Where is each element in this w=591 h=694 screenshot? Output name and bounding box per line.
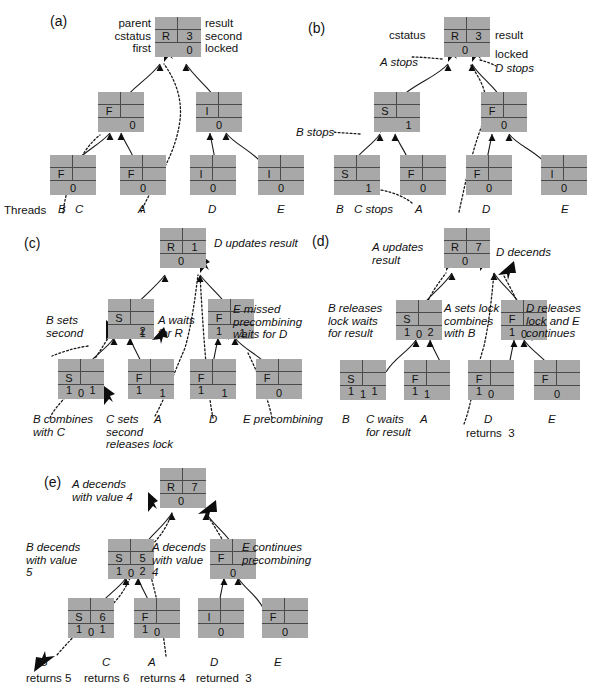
- annotation-a-waits-for-r: A waits for R: [158, 314, 195, 339]
- annotation-e-continues-precombining: E continues precombining: [242, 541, 311, 566]
- node-leaf-3: F 0: [534, 360, 580, 400]
- annotation-b-returns-5: returns 5: [26, 672, 71, 685]
- annotation-a-updates-result: A updates result: [372, 241, 423, 266]
- node-leaf-2: F 1 0: [468, 360, 514, 400]
- annotation-e-missed-precombining: E missed precombining waits for D: [233, 303, 302, 341]
- thread-label-a: A: [148, 656, 156, 669]
- annotation-d: D: [209, 413, 217, 426]
- node-leaf-1: F 0: [400, 155, 446, 195]
- thread-label-c: C: [75, 203, 83, 216]
- thread-label-e: E: [548, 413, 556, 426]
- panel-a: (a) R 3 0 F: [0, 0, 300, 228]
- node-leaf-3: F 0: [262, 598, 308, 638]
- node-cstatus: R: [155, 30, 177, 43]
- annotation-a-descends-with-value-4: A decends with value 4: [72, 478, 133, 503]
- node-mid-left: S 2 1: [108, 299, 154, 339]
- annotation-a-descends-with-value: A decends with value 4: [152, 541, 206, 579]
- thread-label-b: B: [336, 203, 344, 216]
- node-leaf-0: S 1 1 0: [58, 359, 104, 399]
- node-leaf-0: F 0: [50, 155, 96, 195]
- annotation-c-waits-for-result: C waits for result: [366, 413, 411, 438]
- thread-label-b: B: [58, 203, 66, 216]
- node-mid-right: F 0: [481, 92, 527, 132]
- node-mid-left: S 1: [374, 92, 420, 132]
- node-mid-left: S 1 2 0: [396, 300, 442, 340]
- annotation-result: result: [495, 29, 523, 42]
- annotation-d-returned-3: returned 3: [196, 672, 252, 685]
- thread-label-e: E: [277, 203, 285, 216]
- node-leaf-2: F 0: [466, 155, 512, 195]
- node-leaf-2: I 0: [190, 155, 236, 195]
- thread-label-e: E: [274, 656, 282, 669]
- thread-label-d: D: [482, 203, 490, 216]
- node-leaf-1: F 0: [120, 155, 166, 195]
- node-result: 3: [178, 30, 201, 43]
- threads-label: Threads: [4, 204, 46, 217]
- annotation-a-returns-4: returns 4: [140, 672, 185, 685]
- node-root: R 3 0: [444, 17, 490, 57]
- annotation-c-stops: C stops: [354, 203, 393, 216]
- annotation-c-sets-second-releases-lock: C sets second releases lock: [106, 413, 173, 451]
- node-leaf-2: I 0: [198, 598, 244, 638]
- thread-label-b: B: [342, 413, 350, 426]
- annotation-d-updates-result: D updates result: [214, 237, 298, 250]
- annotation-cstatus: cstatus: [389, 29, 425, 42]
- annotation-b-combines-with-c: B combines with C: [33, 413, 93, 438]
- node-mid-left: F 0: [98, 92, 144, 132]
- node-root: R 7 0: [160, 468, 206, 508]
- node-leaf-3: I 0: [541, 155, 587, 195]
- annotation-parent-cstatus-first: parent cstatus first: [103, 17, 151, 55]
- annotation-d-releases-lock: D releases lock and E continues: [526, 302, 581, 340]
- panel-d: (d) R 7 0 S 1 2 0: [296, 228, 591, 460]
- annotation-b-stops: B stops: [296, 126, 334, 139]
- thread-label-e: E: [561, 203, 569, 216]
- node-root: R 7 0: [444, 228, 490, 268]
- node-leaf-0: S 1 1 1: [340, 360, 386, 400]
- annotation-d-descends: D decends: [496, 246, 551, 259]
- annotation-b-sets-second: B sets second: [46, 314, 83, 339]
- panel-e: (e) R 7 0 S 5 1 2 0: [0, 460, 340, 694]
- annotation-d-returns-3: returns 3: [466, 427, 515, 440]
- node-root: R 1 0: [160, 228, 206, 268]
- thread-label-d: D: [484, 413, 492, 426]
- node-root: R 3 0: [155, 17, 201, 57]
- annotation-b-descends-with-value-5: B decends with value 5: [26, 541, 80, 579]
- node-leaf-2: F 1 1: [190, 359, 236, 399]
- thread-label-d: D: [210, 656, 218, 669]
- thread-label-a: A: [138, 203, 146, 216]
- annotation-result-second-locked: result second locked: [205, 17, 242, 55]
- thread-label-b: B: [40, 656, 48, 669]
- annotation-locked: locked: [495, 48, 528, 61]
- node-leaf-0: S 6 1 1 0: [68, 598, 114, 638]
- annotation-a-stops: A stops: [380, 56, 418, 69]
- thread-label-a: A: [415, 203, 423, 216]
- annotation-c-returns-6: returns 6: [84, 672, 129, 685]
- node-locked: 0: [178, 43, 201, 57]
- annotation-b-releases-lock: B releases lock waits for result: [328, 302, 382, 340]
- panel-b: (b) R 3 0 S 1: [296, 0, 591, 228]
- node-leaf-1: F 1 1: [128, 359, 174, 399]
- thread-label-c: C: [102, 656, 110, 669]
- node-leaf-0: S 1: [334, 155, 380, 195]
- annotation-d-stops: D stops: [495, 62, 534, 75]
- panel-c: (c) R 1 0 S 2 1: [0, 228, 300, 460]
- annotation-a-sets-lock-combines: A sets lock combines with B: [444, 302, 499, 340]
- thread-label-d: D: [208, 203, 216, 216]
- thread-label-a: A: [420, 413, 428, 426]
- node-mid-right: I 0: [196, 92, 242, 132]
- node-mid-left: S 5 1 2 0: [108, 539, 154, 579]
- annotation-a: A: [154, 413, 162, 426]
- node-leaf-1: F 1 0: [134, 598, 180, 638]
- node-leaf-1: F 1 1: [404, 360, 450, 400]
